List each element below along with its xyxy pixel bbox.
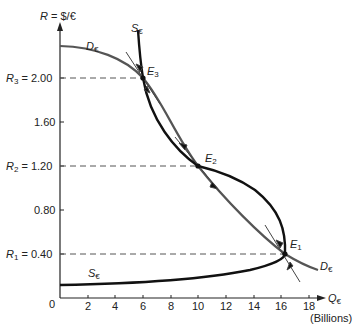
y-axis-label: R = $/€ [40, 10, 76, 22]
demand-label-top: D€ [86, 40, 99, 54]
supply-label-bottom: S€ [88, 267, 100, 281]
svg-text:R2 = 1.20: R2 = 1.20 [6, 160, 52, 174]
supply-curve [60, 30, 285, 285]
svg-text:12: 12 [220, 300, 232, 312]
svg-text:14: 14 [248, 300, 260, 312]
demand-label-bottom: D€ [320, 260, 333, 274]
svg-text:R3 = 2.00: R3 = 2.00 [6, 72, 52, 86]
svg-text:R1 = 0.40: R1 = 0.40 [6, 248, 52, 262]
x-axis-label: Q€ [328, 292, 342, 306]
y-ticks: R3 = 2.00 1.60 R2 = 1.20 0.80 R1 = 0.40 [6, 72, 64, 262]
equilibrium-guides [60, 78, 285, 254]
svg-text:18: 18 [303, 300, 315, 312]
svg-text:1.60: 1.60 [34, 116, 55, 128]
adjustment-arrows [126, 52, 300, 282]
x-axis-unit: (Billions) [310, 312, 352, 324]
equilibrium-e2 [195, 163, 200, 168]
equilibrium-e3 [140, 75, 145, 80]
svg-text:16: 16 [275, 300, 287, 312]
svg-text:10: 10 [192, 300, 204, 312]
origin-label: 0 [49, 298, 55, 310]
svg-text:8: 8 [168, 300, 174, 312]
e1-label: E1 [290, 238, 302, 252]
foreign-exchange-chart: R = $/€ Q€ (Billions) 0 2 4 6 8 10 12 14… [0, 0, 360, 332]
e2-label: E2 [205, 152, 217, 166]
svg-text:6: 6 [140, 300, 146, 312]
svg-text:2: 2 [85, 300, 91, 312]
y-axis [57, 22, 63, 298]
svg-text:0.80: 0.80 [34, 204, 55, 216]
e3-label: E3 [147, 65, 159, 79]
supply-label-top: S€ [131, 22, 143, 36]
equilibrium-e1 [282, 251, 287, 256]
svg-text:4: 4 [112, 300, 118, 312]
